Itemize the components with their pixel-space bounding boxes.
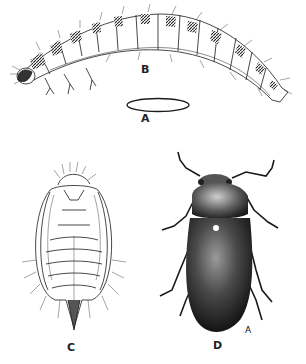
larva-drawing: [10, 4, 292, 102]
panel-label-d: D: [213, 340, 222, 351]
panel-label-b: B: [141, 64, 149, 75]
panel-label-a: A: [141, 113, 150, 124]
illustration-canvas: [0, 0, 306, 364]
egg-drawing: [127, 99, 189, 112]
adult-beetle-drawing: [160, 152, 278, 332]
pupa-drawing: [22, 162, 126, 330]
panel-label-c: C: [67, 342, 75, 353]
artist-mark: A: [245, 326, 251, 335]
